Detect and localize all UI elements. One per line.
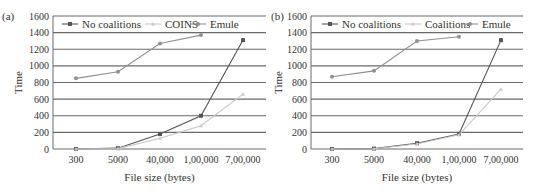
x-tick-label: 40,000 [403, 154, 431, 165]
y-tick-label: 800 [34, 77, 49, 88]
chart-panel-b: 02004006008001000120014001600(b)30050004… [271, 10, 523, 185]
y-tick-label: 0 [302, 144, 307, 155]
x-tick-label: 5000 [108, 154, 128, 165]
y-tick-label: 600 [292, 94, 307, 105]
svg-text:No coalitions: No coalitions [82, 18, 141, 30]
x-tick-label: 1,00,000 [442, 154, 477, 165]
chart-panel-a: 02004006008001000120014001600(a)30050004… [2, 10, 266, 185]
y-axis-label: Time [272, 71, 284, 94]
y-tick-label: 1400 [29, 27, 49, 38]
y-tick-label: 1000 [287, 60, 307, 71]
legend: No coalitionsCOINSEmule [56, 18, 261, 31]
y-tick-label: 200 [292, 127, 307, 138]
svg-text:No coalitions: No coalitions [342, 18, 401, 30]
x-tick-label: 300 [69, 154, 84, 165]
y-tick-label: 1600 [287, 11, 307, 22]
series-emule [74, 33, 203, 80]
y-tick-label: 1200 [287, 44, 307, 55]
figure: 02004006008001000120014001600(a)30050004… [0, 0, 541, 194]
x-tick-label: 7,00,000 [484, 154, 519, 165]
y-tick-label: 600 [34, 94, 49, 105]
y-tick-label: 200 [34, 127, 49, 138]
svg-text:Emule: Emule [210, 18, 239, 30]
legend: No coalitionsCoalitionsEmule [314, 18, 518, 31]
y-tick-label: 1600 [29, 11, 49, 22]
panel-label: (b) [271, 10, 284, 23]
x-tick-label: 7,00,000 [226, 154, 261, 165]
x-axis-label: File size (bytes) [382, 171, 453, 184]
series-coalitions [330, 87, 503, 150]
series-emule [330, 35, 461, 79]
series-coins [74, 92, 245, 150]
y-tick-label: 1200 [29, 44, 49, 55]
y-axis-label: Time [12, 71, 24, 94]
x-axis-label: File size (bytes) [124, 171, 195, 184]
y-tick-label: 1000 [29, 60, 49, 71]
panel-label: (a) [2, 10, 15, 23]
y-tick-label: 800 [292, 77, 307, 88]
svg-text:Emule: Emule [482, 18, 511, 30]
series-no-coalitions [330, 38, 503, 151]
y-tick-label: 0 [44, 144, 49, 155]
x-tick-label: 40,000 [146, 154, 174, 165]
y-tick-label: 400 [34, 110, 49, 121]
x-tick-label: 5000 [364, 154, 384, 165]
y-tick-label: 400 [292, 110, 307, 121]
x-tick-label: 300 [325, 154, 340, 165]
series-no-coalitions [74, 38, 245, 151]
x-tick-label: 1,00,000 [184, 154, 219, 165]
y-tick-label: 1400 [287, 27, 307, 38]
